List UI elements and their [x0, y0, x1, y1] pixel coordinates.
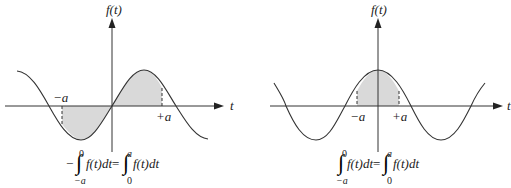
even-left-lower-limit: −a: [336, 176, 348, 186]
even-right-upper-limit: a: [387, 149, 392, 159]
odd-right-upper-limit: a: [127, 149, 132, 159]
even-right-lower-limit: 0: [387, 176, 392, 186]
odd-function-figure: ∫ ∫: [5, 18, 224, 176]
odd-t-axis-label: t: [230, 99, 234, 112]
odd-left-lower-limit: −a: [74, 176, 86, 186]
odd-equals: =: [112, 157, 119, 170]
odd-left-upper-limit: 0: [79, 149, 84, 159]
odd-neg-a-label: −a: [53, 91, 68, 104]
odd-equation-prefix: −: [66, 157, 73, 170]
odd-f-axis-label: f(t): [106, 3, 122, 16]
odd-f-axis-arrow-icon: [109, 18, 116, 28]
even-pos-a-label: +a: [392, 110, 407, 123]
even-left-integrand: f(t)dt: [347, 157, 373, 170]
odd-pos-a-label: +a: [156, 110, 171, 123]
even-f-axis-label: f(t): [371, 3, 387, 16]
even-neg-a-label: −a: [350, 110, 365, 123]
even-t-axis-arrow-icon: [493, 103, 503, 110]
even-equals: =: [373, 157, 380, 170]
odd-left-integrand: f(t)dt: [86, 157, 112, 170]
even-right-integrand: f(t)dt: [393, 157, 419, 170]
even-t-axis-label: t: [507, 99, 511, 112]
odd-right-lower-limit: 0: [127, 176, 132, 186]
odd-right-integrand: f(t)dt: [133, 157, 159, 170]
even-f-axis-arrow-icon: [375, 18, 382, 28]
odd-t-axis-arrow-icon: [214, 103, 224, 110]
